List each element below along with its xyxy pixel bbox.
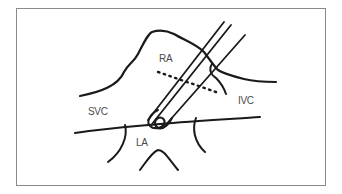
ra-branch <box>210 64 226 94</box>
diagram-border <box>17 9 167 86</box>
figure-border <box>17 9 167 86</box>
label-ra: RA <box>159 53 173 64</box>
diagram-frame <box>16 8 166 86</box>
la-left-wall <box>108 125 126 162</box>
frame-rect <box>17 9 326 186</box>
dotted-marker-line <box>158 72 216 92</box>
diagram-canvas: RA SVC IVC LA <box>0 0 342 194</box>
ra-outline <box>80 31 276 96</box>
label-ivc: IVC <box>238 95 254 106</box>
box <box>17 9 167 86</box>
la-right-wall <box>194 118 205 152</box>
label-svc: SVC <box>88 106 108 117</box>
outer-box <box>17 9 167 86</box>
la-bottom-peak <box>140 150 178 170</box>
figure-outline <box>17 9 167 86</box>
label-la: LA <box>136 137 148 148</box>
